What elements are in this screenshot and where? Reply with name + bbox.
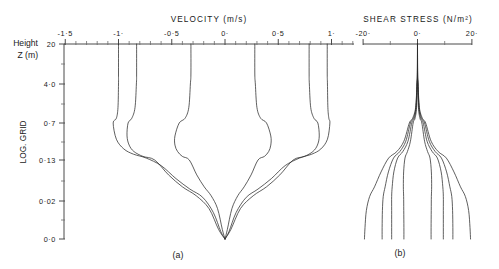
shear-stress-curve: [418, 44, 444, 239]
y-axis-name: LOG. GRID: [18, 121, 28, 164]
velocity-xtick-labels: -1·5-1·-0·50·0·51·: [58, 29, 336, 38]
shear-stress-curve: [392, 44, 418, 239]
shear-stress-curves: [364, 44, 470, 239]
x-tick-label: 0·: [414, 29, 422, 38]
velocity-profile-curve: [127, 44, 225, 239]
velocity-x-axis: [64, 39, 354, 45]
y-axis-group: Height Z (m) LOG. GRID 204·00·70·130·020…: [13, 38, 65, 244]
y-tick-label: 4·0: [44, 80, 56, 89]
x-tick-label: -20·: [355, 29, 370, 38]
velocity-profile-curve: [113, 44, 225, 239]
velocity-profile-curve: [225, 44, 330, 239]
y-tick-label: 0·7: [44, 119, 56, 128]
shear-stress-curve: [382, 44, 417, 239]
y-tick-label: 0·0: [44, 235, 56, 244]
velocity-profile-curve: [225, 44, 319, 239]
x-tick-label: 20·: [466, 29, 478, 38]
panel-b-shear-stress: SHEAR STRESS (N/m²) -20·0·20· (b): [355, 15, 478, 258]
figure-root: VELOCITY (m/s) -1·5-1·-0·50·0·51· (a) He…: [0, 0, 499, 269]
panel-label-b: (b): [395, 248, 406, 258]
x-tick-label: -0·5: [164, 29, 179, 38]
shear-stress-axis-title: SHEAR STRESS (N/m²): [363, 15, 473, 24]
x-tick-label: 1·: [328, 29, 336, 38]
y-axis-corner-label-line1: Height: [13, 38, 38, 48]
shear-stress-curve: [364, 44, 417, 239]
shear-stress-curve: [418, 44, 453, 239]
velocity-profile-curve: [175, 44, 225, 239]
velocity-profile-curve: [225, 44, 271, 239]
shear-stress-curve: [418, 44, 471, 239]
y-tick-label: 20: [47, 40, 56, 49]
y-tick-label: 0·13: [39, 156, 56, 165]
panel-label-a: (a): [173, 250, 184, 260]
panel-a-velocity: VELOCITY (m/s) -1·5-1·-0·50·0·51· (a): [58, 15, 354, 260]
x-tick-label: -1·5: [58, 29, 73, 38]
shear-xtick-labels: -20·0·20·: [355, 29, 478, 38]
y-tick-label: 0·02: [39, 197, 56, 206]
y-axis-corner-label-line2: Z (m): [17, 50, 38, 60]
velocity-profile-curves: [113, 44, 330, 239]
x-tick-label: 0·: [221, 29, 229, 38]
velocity-axis-title: VELOCITY (m/s): [171, 15, 248, 24]
x-tick-label: 0·5: [272, 29, 284, 38]
y-axis-ticks: 204·00·70·130·020·0: [39, 40, 65, 244]
x-tick-label: -1·: [113, 29, 124, 38]
